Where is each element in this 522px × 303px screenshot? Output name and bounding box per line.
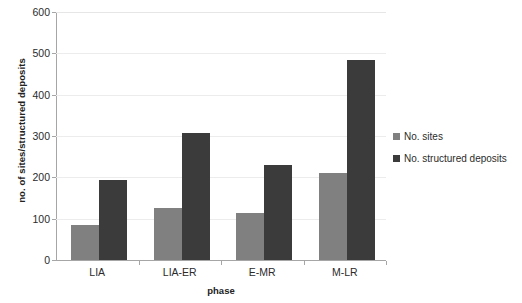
legend-item-0[interactable]: No. sites: [393, 131, 521, 142]
bar-lia-series-1: [99, 180, 127, 260]
x-axis-label-lia-er: LIA-ER: [139, 266, 222, 278]
y-axis-tick-label: 200: [32, 171, 50, 183]
x-axis-label-lia: LIA: [56, 266, 139, 278]
x-axis-title: phase: [56, 285, 386, 296]
y-axis-tick: [52, 260, 56, 261]
y-axis-tick-label: 500: [32, 47, 50, 59]
y-axis-tick-label: 0: [44, 254, 50, 266]
plot-inner: 0100200300400500600: [56, 12, 386, 261]
bar-group: [236, 12, 292, 260]
bar-group: [71, 12, 127, 260]
plot-area: 0100200300400500600: [56, 12, 386, 261]
y-axis-tick: [52, 177, 56, 178]
y-axis-tick: [52, 12, 56, 13]
y-axis-title: no. of sites/structured deposits: [16, 21, 27, 241]
y-axis-tick-label: 300: [32, 130, 50, 142]
y-axis-tick: [52, 53, 56, 54]
legend-swatch-icon: [393, 133, 400, 140]
bar-chart: no. of sites/structured deposits 0100200…: [0, 0, 522, 303]
x-axis-label-m-lr: M-LR: [304, 266, 387, 278]
chart-legend: No. sitesNo. structured deposits: [393, 131, 521, 175]
x-axis-tick: [221, 261, 222, 265]
y-axis-tick: [52, 136, 56, 137]
x-axis-tick: [139, 261, 140, 265]
legend-label: No. sites: [404, 131, 443, 142]
x-axis-label-e-mr: E-MR: [221, 266, 304, 278]
y-axis-tick: [52, 219, 56, 220]
bar-group: [319, 12, 375, 260]
bar-m-lr-series-1: [347, 60, 375, 260]
bar-lia-series-0: [71, 225, 99, 260]
y-axis-tick-label: 400: [32, 89, 50, 101]
bar-lia-er-series-0: [154, 208, 182, 260]
y-axis-tick-label: 600: [32, 6, 50, 18]
x-axis-tick: [386, 261, 387, 265]
bar-e-mr-series-1: [264, 165, 292, 260]
y-axis-tick-label: 100: [32, 213, 50, 225]
legend-label: No. structured deposits: [404, 153, 507, 164]
legend-item-1[interactable]: No. structured deposits: [393, 153, 521, 164]
bar-m-lr-series-0: [319, 173, 347, 260]
bar-group: [154, 12, 210, 260]
x-axis-tick: [304, 261, 305, 265]
bar-lia-er-series-1: [182, 133, 210, 260]
bar-e-mr-series-0: [236, 213, 264, 260]
y-axis-tick: [52, 95, 56, 96]
legend-swatch-icon: [393, 155, 400, 162]
